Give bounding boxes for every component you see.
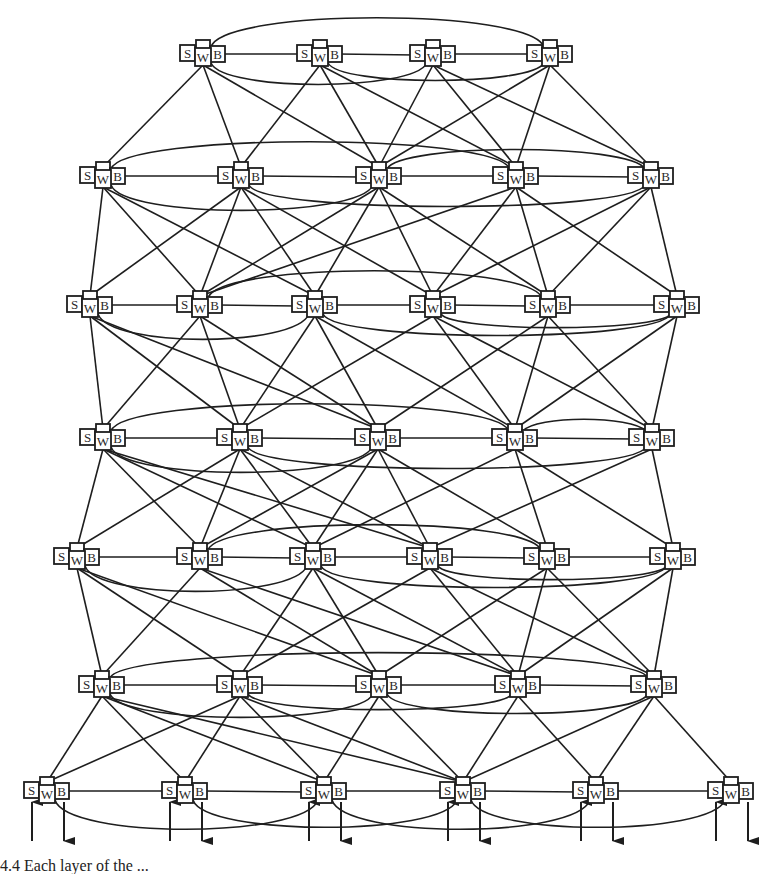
switch-node: SWB xyxy=(54,543,99,569)
link xyxy=(652,449,673,548)
ring-segment xyxy=(451,305,530,306)
switch-node: SWB xyxy=(301,777,346,803)
switch-label: S xyxy=(444,783,451,798)
switch-node: SWB xyxy=(67,291,112,317)
buffer-label: B xyxy=(558,298,567,313)
worker-label: W xyxy=(234,434,247,449)
wraparound-link xyxy=(249,185,645,206)
switch-node: SWB xyxy=(177,291,222,317)
link xyxy=(515,316,677,429)
switch-node: SWB xyxy=(80,162,125,188)
switch-label: S xyxy=(633,430,640,445)
switch-label: S xyxy=(635,677,642,692)
wraparound-link xyxy=(523,419,646,431)
buffer-label: B xyxy=(57,784,66,799)
link xyxy=(103,449,313,548)
link xyxy=(203,65,241,167)
buffer-label: B xyxy=(325,298,334,313)
link xyxy=(313,449,515,548)
buffer-label: B xyxy=(210,550,219,565)
buffer-label: B xyxy=(662,431,671,446)
wraparound-link xyxy=(471,800,725,827)
link xyxy=(548,316,652,429)
worker-label: W xyxy=(510,172,523,187)
worker-label: W xyxy=(179,787,192,802)
worker-label: W xyxy=(234,681,247,696)
buffer-label: B xyxy=(250,678,259,693)
link xyxy=(652,316,677,429)
link xyxy=(548,187,651,296)
wraparound-link xyxy=(208,271,542,298)
worker-label: W xyxy=(318,787,331,802)
switch-node: SWB xyxy=(217,424,262,450)
buffer-label: B xyxy=(213,47,222,62)
buffer-label: B xyxy=(661,169,670,184)
wraparound-link xyxy=(208,525,541,550)
worker-label: W xyxy=(307,553,320,568)
worker-label: W xyxy=(314,50,327,65)
link xyxy=(203,65,379,167)
switch-node: SWB xyxy=(407,543,452,569)
buffer-label: B xyxy=(87,550,96,565)
buffer-label: B xyxy=(687,298,696,313)
worker-label: W xyxy=(667,553,680,568)
wraparound-link xyxy=(111,142,510,169)
switch-node: SWB xyxy=(524,543,569,569)
worker-label: W xyxy=(96,681,109,696)
switch-label: S xyxy=(296,297,303,312)
switch-label: S xyxy=(83,677,90,692)
figure-caption: 4.4 Each layer of the ... xyxy=(0,858,774,874)
switch-label: S xyxy=(84,430,91,445)
switch-label: S xyxy=(166,783,173,798)
worker-label: W xyxy=(427,50,440,65)
switch-node: SWB xyxy=(218,162,263,188)
switch-label: S xyxy=(531,46,538,61)
switch-node: SWB xyxy=(80,424,125,450)
worker-label: W xyxy=(41,787,54,802)
ring-segment xyxy=(258,438,360,439)
buffer-label: B xyxy=(473,784,482,799)
switch-node: SWB xyxy=(631,671,676,697)
link xyxy=(200,316,378,429)
worker-label: W xyxy=(197,50,210,65)
switch-label: S xyxy=(632,168,639,183)
ring-segment xyxy=(259,176,361,177)
switch-node: SWB xyxy=(355,424,400,450)
worker-label: W xyxy=(590,787,603,802)
switch-node: SWB xyxy=(527,40,572,66)
switch-label: S xyxy=(499,677,506,692)
link xyxy=(654,568,673,676)
buffer-label: B xyxy=(683,550,692,565)
link xyxy=(515,449,673,548)
worker-label: W xyxy=(646,434,659,449)
switch-node: SWB xyxy=(492,424,537,450)
worker-label: W xyxy=(194,301,207,316)
worker-label: W xyxy=(645,172,658,187)
switch-node: SWB xyxy=(629,424,674,450)
switch-label: S xyxy=(305,783,312,798)
link xyxy=(103,316,200,429)
switch-node: SWB xyxy=(410,40,455,66)
worker-label: W xyxy=(84,301,97,316)
switch-label: S xyxy=(414,46,421,61)
buffer-label: B xyxy=(443,47,452,62)
link xyxy=(77,449,240,548)
ring-segment xyxy=(218,557,295,558)
worker-label: W xyxy=(671,301,684,316)
buffer-label: B xyxy=(250,431,259,446)
switch-label: S xyxy=(84,168,91,183)
worker-label: W xyxy=(372,434,385,449)
worker-label: W xyxy=(97,434,110,449)
switch-label: S xyxy=(360,168,367,183)
switch-node: SWB xyxy=(440,777,485,803)
ring-segment xyxy=(258,685,361,686)
switch-label: S xyxy=(221,430,228,445)
link xyxy=(379,187,433,296)
switch-node: SWB xyxy=(650,543,695,569)
worker-label: W xyxy=(725,787,738,802)
wraparound-link xyxy=(55,800,318,829)
switch-label: S xyxy=(658,297,665,312)
switch-label: S xyxy=(28,783,35,798)
switch-node: SWB xyxy=(24,777,69,803)
switch-node: SWB xyxy=(79,671,124,697)
